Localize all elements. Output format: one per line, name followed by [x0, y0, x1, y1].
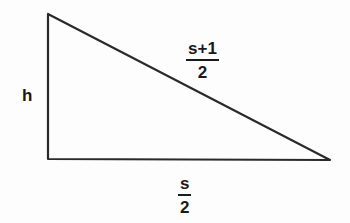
base-label: s 2: [178, 175, 191, 216]
base-numerator: s: [178, 175, 191, 196]
hypotenuse-numerator: s+1: [186, 40, 219, 61]
hypotenuse-label: s+1 2: [186, 40, 219, 81]
base-denominator: 2: [180, 196, 189, 216]
triangle-diagram: [0, 0, 350, 223]
hypotenuse-denominator: 2: [198, 61, 207, 81]
right-triangle: [48, 14, 330, 160]
height-label: h: [22, 87, 32, 104]
